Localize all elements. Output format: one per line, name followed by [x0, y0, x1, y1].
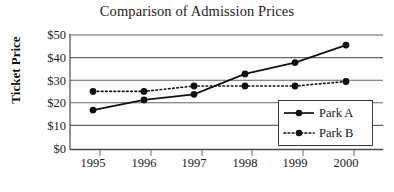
series-park-b-line — [93, 82, 346, 92]
legend-swatch-dotted-line-icon — [279, 125, 319, 141]
legend-item-park-a: Park A — [279, 103, 374, 123]
legend-item-park-b: Park B — [279, 123, 374, 143]
x-tick-label-1995: 1995 — [67, 156, 119, 171]
x-tick-label-1996: 1996 — [118, 156, 170, 171]
admission-prices-chart: Comparison of Admission Prices Ticket Pr… — [0, 0, 394, 192]
x-tick-label-1998: 1998 — [219, 156, 271, 171]
legend-label-park-b: Park B — [319, 126, 353, 141]
x-tick-label-1997: 1997 — [168, 156, 220, 171]
legend-label-park-a: Park A — [319, 106, 353, 121]
x-tick-label-1999: 1999 — [269, 156, 321, 171]
x-tick-label-2000: 2000 — [320, 156, 372, 171]
chart-legend: Park A Park B — [278, 100, 373, 146]
legend-swatch-solid-line-icon — [279, 105, 319, 121]
